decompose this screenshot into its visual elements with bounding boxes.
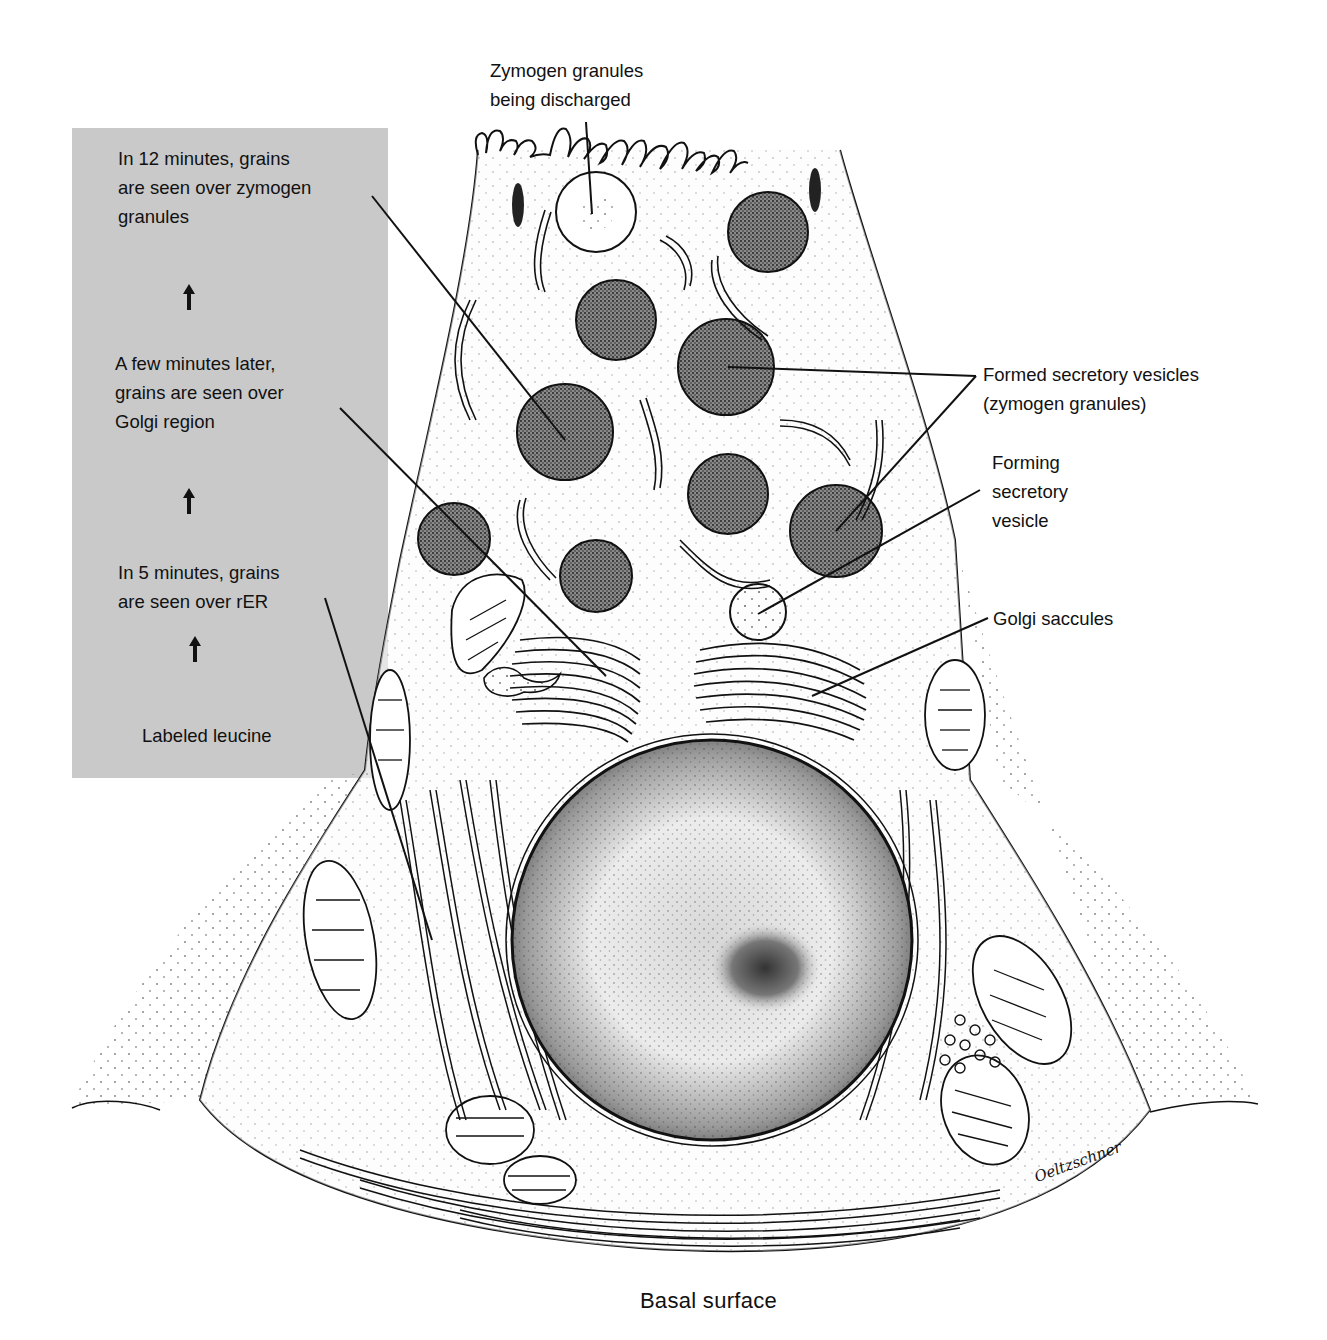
caption-text: Basal surface (640, 1288, 777, 1313)
label-line: (zymogen granules) (983, 389, 1199, 418)
label-line: Labeled leucine (142, 721, 272, 750)
label-line: granules (118, 202, 311, 231)
step-golgi: A few minutes later, grains are seen ove… (115, 349, 284, 436)
up-arrow-icon (182, 488, 196, 514)
up-arrow-icon (188, 636, 202, 662)
label-line: A few minutes later, (115, 349, 284, 378)
label-line: Golgi region (115, 407, 284, 436)
label-line: Zymogen granules (490, 56, 643, 85)
label-line: Formed secretory vesicles (983, 360, 1199, 389)
label-line: Forming (992, 448, 1068, 477)
step-12-minutes: In 12 minutes, grains are seen over zymo… (118, 144, 311, 231)
label-line: are seen over zymogen (118, 173, 311, 202)
label-line: are seen over rER (118, 587, 279, 616)
label-line: vesicle (992, 506, 1068, 535)
label-zymogen-discharged: Zymogen granules being discharged (490, 56, 643, 114)
label-line: In 5 minutes, grains (118, 558, 279, 587)
label-golgi-saccules: Golgi saccules (993, 604, 1113, 633)
cell-diagram: In 12 minutes, grains are seen over zymo… (0, 0, 1327, 1340)
basal-surface-caption: Basal surface (0, 1288, 1327, 1314)
up-arrow-icon (182, 284, 196, 310)
step-labeled-leucine: Labeled leucine (142, 721, 272, 750)
label-line: In 12 minutes, grains (118, 144, 311, 173)
label-formed-vesicles: Formed secretory vesicles (zymogen granu… (983, 360, 1199, 418)
step-5-minutes: In 5 minutes, grains are seen over rER (118, 558, 279, 616)
label-forming-vesicle: Forming secretory vesicle (992, 448, 1068, 535)
label-line: grains are seen over (115, 378, 284, 407)
label-line: being discharged (490, 85, 643, 114)
label-line: Golgi saccules (993, 604, 1113, 633)
label-line: secretory (992, 477, 1068, 506)
